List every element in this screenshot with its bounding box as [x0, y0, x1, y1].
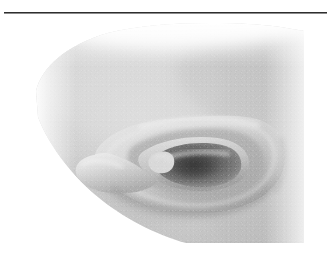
ear-photograph-canvas [36, 21, 304, 243]
figure-page: Grayscale photograph of a human ear seen… [0, 0, 331, 258]
plate-contents [36, 21, 304, 243]
left-falloff [36, 21, 76, 243]
ear-photograph [36, 21, 304, 243]
right-falloff [264, 21, 304, 243]
horizontal-rule [4, 12, 327, 13]
